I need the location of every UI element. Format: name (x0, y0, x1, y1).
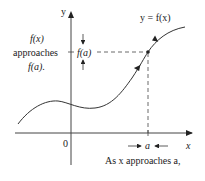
left-annotation-line3: f(a). (28, 61, 45, 73)
a-label: a (145, 140, 150, 151)
y-axis-arrow-icon (68, 11, 74, 18)
y-axis-label: y (61, 6, 66, 17)
x-axis-label: x (185, 140, 191, 151)
left-annotation-line2: approaches (13, 47, 58, 58)
bottom-annotation: As x approaches a, (105, 155, 181, 166)
curve-label: y = f(x) (140, 12, 171, 24)
x-axis-arrow-icon (186, 130, 193, 136)
left-annotation-line1: f(x) (30, 33, 45, 45)
limit-diagram: y x 0 y = f(x) f(a) a f(x) approaches f(… (0, 0, 205, 181)
fa-label: f(a) (77, 47, 92, 59)
origin-label: 0 (63, 138, 68, 149)
